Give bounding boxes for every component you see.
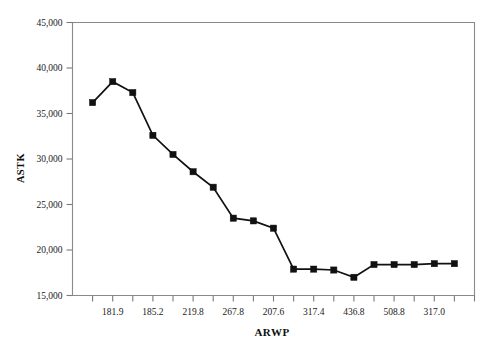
x-axis-tick-label: 508.8 <box>383 307 405 317</box>
data-point-marker <box>451 261 457 267</box>
x-axis-tick-label: 436.8 <box>343 307 365 317</box>
y-axis-tick-label: 30,000 <box>36 154 62 164</box>
x-axis-tick-label: 207.6 <box>263 307 285 317</box>
x-axis-title-text: ARWP <box>254 326 289 338</box>
data-point-marker <box>170 151 176 157</box>
data-point-marker <box>391 261 397 267</box>
x-axis-tick-label: 317.4 <box>303 307 325 317</box>
x-axis-tick-label: 181.9 <box>102 307 124 317</box>
x-axis-tick-label: 267.8 <box>223 307 245 317</box>
x-axis-title: ARWP <box>254 326 289 338</box>
y-axis-title-text: ASTK <box>15 152 26 183</box>
y-axis-title: ASTK <box>15 152 26 183</box>
x-axis-tick-labels: 181.9185.2219.8267.8207.6317.4436.8508.8… <box>102 307 445 317</box>
data-point-marker <box>270 225 276 231</box>
data-point-marker <box>210 184 216 190</box>
data-point-marker <box>371 261 377 267</box>
data-point-marker <box>130 89 136 95</box>
data-point-marker <box>331 267 337 273</box>
data-point-marker <box>190 169 196 175</box>
data-point-marker <box>90 99 96 105</box>
data-point-marker <box>351 274 357 280</box>
y-axis-tick-label: 20,000 <box>36 245 62 255</box>
x-axis-tick-label: 219.8 <box>182 307 204 317</box>
data-point-marker <box>150 132 156 138</box>
y-axis-tick-label: 15,000 <box>36 291 62 301</box>
y-axis-tick-label: 35,000 <box>36 109 62 119</box>
data-point-marker <box>250 218 256 224</box>
x-axis-ticks <box>93 296 475 302</box>
x-axis-tick-label: 317.0 <box>424 307 446 317</box>
data-point-marker <box>110 79 116 85</box>
data-series <box>90 79 458 281</box>
data-point-marker <box>411 261 417 267</box>
y-axis-tick-labels: 15,00020,00025,00030,00035,00040,00045,0… <box>36 18 62 301</box>
y-axis-tick-label: 25,000 <box>36 200 62 210</box>
plot-frame <box>73 23 475 296</box>
data-point-marker <box>311 266 317 272</box>
data-point-marker <box>291 266 297 272</box>
y-axis-tick-label: 40,000 <box>36 63 62 73</box>
y-axis-ticks <box>67 23 73 296</box>
data-point-marker <box>230 215 236 221</box>
x-axis-tick-label: 185.2 <box>142 307 164 317</box>
data-point-marker <box>431 261 437 267</box>
y-axis-tick-label: 45,000 <box>36 18 62 28</box>
line-chart: 15,00020,00025,00030,00035,00040,00045,0… <box>0 0 489 349</box>
chart-container: 15,00020,00025,00030,00035,00040,00045,0… <box>0 0 489 349</box>
